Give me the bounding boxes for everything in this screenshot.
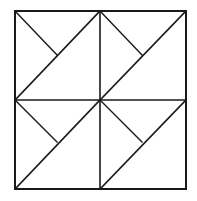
quadrant-top-left <box>15 11 100 100</box>
perpendicular-segment <box>100 100 142 142</box>
perpendicular-segment <box>100 11 142 55</box>
perpendicular-segment <box>15 100 57 142</box>
quadrant-top-right <box>100 11 186 100</box>
quadrant-bottom-right <box>100 100 186 189</box>
geometric-dissection-diagram <box>0 0 197 201</box>
quadrant-bottom-left <box>15 100 100 189</box>
perpendicular-segment <box>15 11 57 55</box>
